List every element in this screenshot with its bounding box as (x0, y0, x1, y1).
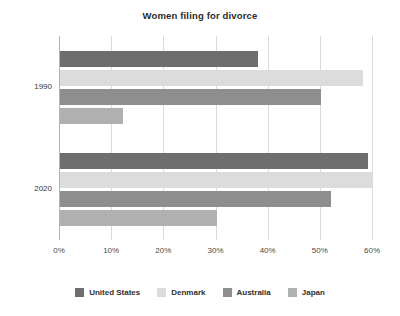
x-axis-label-40pct: 40% (248, 246, 288, 255)
legend-item-denmark[interactable]: Denmark (157, 288, 205, 297)
gridline (268, 36, 269, 240)
legend-label: Denmark (171, 288, 205, 297)
chart-legend: United StatesDenmarkAustraliaJapan (0, 288, 400, 297)
bar-denmark-2020 (60, 172, 373, 188)
gridline (320, 36, 321, 240)
bar-united-states-1990 (60, 51, 258, 67)
legend-label: United States (89, 288, 140, 297)
plot-area (59, 36, 372, 240)
x-axis-label-10pct: 10% (91, 246, 131, 255)
x-axis-label-60pct: 60% (352, 246, 392, 255)
legend-item-japan[interactable]: Japan (288, 288, 325, 297)
legend-label: Japan (302, 288, 325, 297)
gridline (372, 36, 373, 240)
legend-swatch-icon (223, 288, 232, 297)
bar-japan-1990 (60, 108, 123, 124)
legend-label: Australia (237, 288, 271, 297)
bar-japan-2020 (60, 210, 217, 226)
y-axis-label-1990: 1990 (4, 82, 52, 91)
chart-container: Women filing for divorce 19902020 0%10%2… (0, 0, 400, 316)
x-axis-label-30pct: 30% (196, 246, 236, 255)
x-axis-label-0pct: 0% (39, 246, 79, 255)
bar-australia-2020 (60, 191, 331, 207)
chart-title: Women filing for divorce (0, 10, 400, 21)
y-axis-label-2020: 2020 (4, 184, 52, 193)
bar-united-states-2020 (60, 153, 368, 169)
legend-item-australia[interactable]: Australia (223, 288, 271, 297)
x-axis-label-20pct: 20% (143, 246, 183, 255)
bar-australia-1990 (60, 89, 321, 105)
x-axis-label-50pct: 50% (300, 246, 340, 255)
legend-swatch-icon (288, 288, 297, 297)
legend-item-united-states[interactable]: United States (75, 288, 140, 297)
legend-swatch-icon (75, 288, 84, 297)
legend-swatch-icon (157, 288, 166, 297)
bar-denmark-1990 (60, 70, 363, 86)
